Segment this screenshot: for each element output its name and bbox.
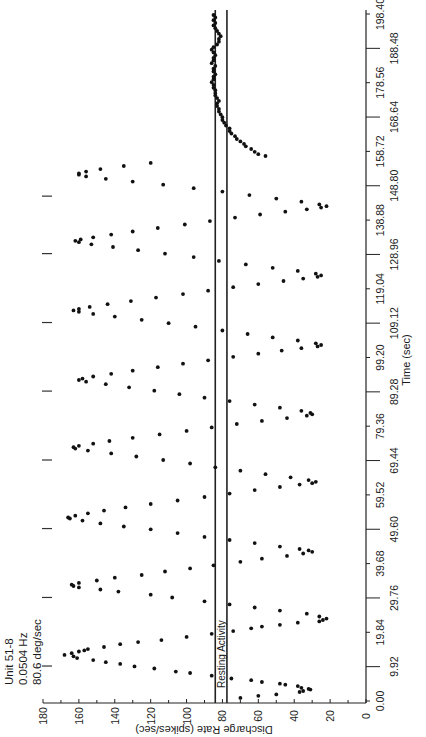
data-point bbox=[91, 375, 95, 379]
data-point bbox=[108, 439, 112, 443]
data-point bbox=[249, 678, 253, 682]
data-point bbox=[260, 625, 264, 629]
data-point bbox=[102, 509, 106, 513]
data-point bbox=[86, 511, 90, 515]
data-point bbox=[113, 576, 117, 580]
data-point bbox=[91, 442, 95, 446]
data-point bbox=[208, 219, 212, 223]
chart-canvas: 0204060801001201401601800.009.9219.8429.… bbox=[0, 0, 426, 737]
data-point bbox=[185, 429, 189, 433]
data-point bbox=[183, 223, 187, 227]
data-point bbox=[246, 332, 250, 336]
data-point bbox=[264, 154, 268, 158]
data-point bbox=[307, 549, 311, 553]
data-point bbox=[124, 506, 128, 510]
labels-layer: Unit 51-8 0.0504 Hz 80.6 deg/sec Dischar… bbox=[3, 334, 412, 736]
data-point bbox=[319, 206, 323, 210]
data-point bbox=[206, 358, 210, 362]
time-tick-label: 158.72 bbox=[374, 135, 386, 167]
rate-axis-label: Discharge Rate (spikes/sec) bbox=[135, 724, 273, 736]
rate-tick-label: 40 bbox=[288, 710, 300, 722]
data-point bbox=[131, 180, 135, 184]
data-point bbox=[264, 472, 268, 476]
time-tick-label: 0.00 bbox=[374, 691, 386, 712]
data-point bbox=[163, 570, 167, 574]
data-point bbox=[192, 186, 196, 190]
data-point bbox=[203, 396, 207, 400]
data-point bbox=[296, 269, 300, 273]
data-point bbox=[212, 45, 216, 49]
data-point bbox=[77, 650, 81, 654]
data-point bbox=[278, 406, 282, 410]
data-point bbox=[256, 694, 260, 698]
time-tick-label: 29.76 bbox=[388, 585, 400, 611]
data-point bbox=[81, 519, 85, 523]
data-point bbox=[228, 126, 232, 130]
data-point bbox=[117, 590, 121, 594]
data-point bbox=[325, 617, 329, 621]
data-point bbox=[77, 581, 81, 585]
data-point bbox=[325, 204, 329, 208]
data-point bbox=[194, 325, 198, 329]
data-point bbox=[300, 346, 304, 350]
data-point bbox=[118, 642, 122, 646]
data-point bbox=[122, 525, 126, 529]
data-point bbox=[127, 385, 131, 389]
data-point bbox=[91, 658, 95, 662]
data-point bbox=[156, 365, 160, 369]
data-point bbox=[77, 444, 81, 448]
data-point bbox=[244, 263, 248, 267]
data-points bbox=[63, 13, 329, 700]
data-point bbox=[88, 305, 92, 309]
rate-tick-label: 140 bbox=[109, 707, 121, 725]
data-point bbox=[99, 522, 103, 526]
data-point bbox=[156, 226, 160, 230]
data-point bbox=[136, 248, 140, 252]
time-tick-label: 69.44 bbox=[388, 447, 400, 473]
data-point bbox=[278, 485, 282, 489]
data-point bbox=[253, 488, 257, 492]
data-point bbox=[256, 152, 260, 156]
data-point bbox=[210, 674, 214, 678]
data-point bbox=[161, 183, 165, 187]
time-tick-label: 148.80 bbox=[388, 170, 400, 202]
resting-activity-label: Resting Activity bbox=[216, 620, 227, 688]
data-point bbox=[217, 259, 221, 263]
data-point bbox=[95, 579, 99, 583]
data-point bbox=[282, 279, 286, 283]
data-point bbox=[203, 599, 207, 603]
data-point bbox=[278, 609, 282, 613]
data-point bbox=[239, 140, 243, 144]
data-point bbox=[228, 399, 232, 403]
data-point bbox=[73, 239, 77, 243]
data-point bbox=[248, 193, 252, 197]
data-point bbox=[181, 362, 185, 366]
time-tick-label: 119.04 bbox=[374, 273, 386, 304]
time-tick-label: 178.56 bbox=[374, 66, 386, 98]
data-point bbox=[221, 329, 225, 333]
data-point bbox=[149, 161, 153, 165]
data-point bbox=[231, 285, 235, 289]
data-point bbox=[249, 147, 253, 151]
time-axis-label: Time (sec) bbox=[400, 334, 412, 386]
data-point bbox=[163, 252, 167, 256]
data-point bbox=[300, 409, 304, 413]
data-point bbox=[181, 292, 185, 296]
data-point bbox=[239, 696, 243, 700]
data-point bbox=[256, 352, 260, 356]
data-point bbox=[314, 272, 318, 276]
data-point bbox=[170, 596, 174, 600]
data-point bbox=[301, 277, 305, 281]
data-point bbox=[206, 289, 210, 293]
data-point bbox=[289, 475, 293, 479]
data-point bbox=[242, 142, 246, 146]
time-tick-label: 9.92 bbox=[388, 656, 400, 677]
data-point bbox=[111, 245, 115, 249]
data-point bbox=[129, 299, 133, 303]
data-point bbox=[149, 527, 153, 531]
data-point bbox=[188, 671, 192, 675]
data-point bbox=[228, 538, 232, 542]
data-point bbox=[77, 378, 81, 382]
time-tick-label: 138.88 bbox=[374, 204, 386, 236]
data-point bbox=[300, 686, 304, 690]
